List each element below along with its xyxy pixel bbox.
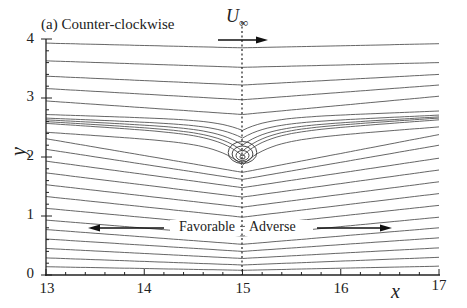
favorable-arrow-icon — [88, 225, 164, 232]
streamline — [46, 85, 439, 100]
streamline-figure: (a) Counter-clockwise U∞ Favorable Adver… — [0, 0, 467, 308]
freestream-symbol: U — [226, 6, 239, 26]
streamline — [46, 74, 439, 85]
x-tick-16: 16 — [334, 280, 349, 297]
x-axis-title: x — [391, 280, 400, 303]
y-axis-title: y — [7, 147, 30, 156]
plot-area — [0, 0, 467, 308]
x-tick-13: 13 — [40, 280, 55, 297]
x-tick-15: 15 — [236, 280, 251, 297]
panel-title: (a) Counter-clockwise — [41, 16, 174, 33]
freestream-subscript: ∞ — [239, 15, 248, 30]
y-tick-4: 4 — [14, 30, 34, 47]
adverse-label: Adverse — [249, 219, 296, 235]
y-tick-1: 1 — [14, 206, 34, 223]
freestream-arrow-icon — [218, 37, 268, 44]
y-tick-3: 3 — [14, 88, 34, 105]
x-tick-17: 17 — [432, 277, 447, 294]
x-tick-14: 14 — [137, 280, 152, 297]
y-tick-0: 0 — [14, 265, 34, 282]
freestream-label: U∞ — [226, 6, 248, 31]
favorable-label: Favorable — [179, 219, 235, 235]
